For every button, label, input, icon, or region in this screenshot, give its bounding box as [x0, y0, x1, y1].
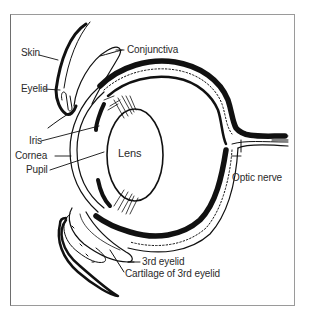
label-iris: Iris [29, 135, 42, 147]
label-skin: Skin [21, 47, 40, 59]
label-optic-nerve: Optic nerve [232, 172, 282, 184]
label-pupil: Pupil [26, 164, 48, 176]
label-conjunctiva: Conjunctiva [127, 44, 178, 56]
label-cornea: Cornea [15, 150, 47, 162]
upper-eyelid-shape [48, 22, 90, 128]
label-lens: Lens [118, 147, 141, 159]
third-eyelid-shape [59, 208, 134, 296]
label-cartilage-third-eyelid: Cartilage of 3rd eyelid [125, 268, 220, 280]
label-third-eyelid: 3rd eyelid [142, 256, 184, 268]
label-eyelid: Eyelid [21, 83, 48, 95]
